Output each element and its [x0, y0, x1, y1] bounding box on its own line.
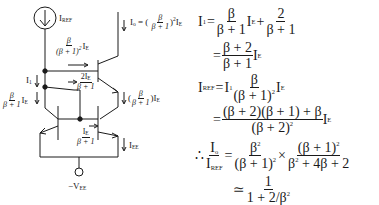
equation-iref: IREF = I1 β(β + 1)2 IE	[198, 72, 285, 104]
right-branch-current-label: (ββ + 1)IE	[128, 90, 160, 108]
left-branch-current-label: ββ + 1IE	[2, 92, 28, 110]
supply-label: −VEE	[68, 182, 86, 192]
equations-panel: I1 = ββ + 1 IE + 2β + 1 = β + 2β + 1 IE …	[198, 0, 379, 205]
i1-label: I1	[26, 76, 32, 86]
bottom-base-current-label: IEβ + 1	[76, 128, 95, 146]
node-dot	[78, 117, 82, 121]
equation-i1: I1 = ββ + 1 IE + 2β + 1	[198, 6, 296, 38]
top-base-current-label: β(β + 1)2IE	[55, 37, 89, 57]
two-ie-label: 2IEβ + 1	[76, 73, 95, 91]
equation-approximation: ≃ 11 + 2/β2	[232, 174, 291, 205]
iref-label: IREF	[59, 14, 72, 24]
output-current-label: Io = ( ββ + 1)2IE	[130, 14, 182, 32]
equation-iref-expanded: = (β + 2)(β + 1) + β(β + 2)2 IE	[212, 104, 331, 136]
equation-i1-simplified: = β + 2β + 1 IE	[212, 40, 262, 72]
supply-terminal	[75, 168, 83, 176]
current-mirror-circuit: IREF Io = ( ββ + 1)2IE β(β + 1)2IE I1 2I…	[0, 0, 190, 205]
equation-ratio: ∴ IoIREF = β2(β + 1)2 × (β + 1)2β2 + 4β …	[194, 140, 350, 172]
iee-label: IEE	[129, 141, 139, 151]
